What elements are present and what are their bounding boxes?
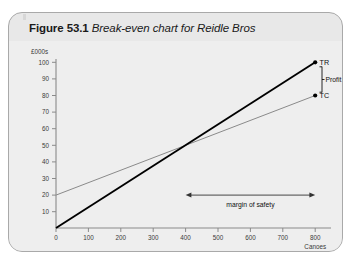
chart-plot-area: £000s 100 90 80 70 60 <box>9 41 343 252</box>
tr-endpoint-marker <box>313 60 317 64</box>
y-tick-label-90: 90 <box>42 75 50 82</box>
y-tick-label-50: 50 <box>42 142 50 149</box>
y-tick-label-70: 70 <box>42 108 50 115</box>
figure-number: Figure 53.1 <box>29 22 89 34</box>
x-axis-title: Canoes <box>304 243 326 250</box>
scan-artifact <box>23 14 26 20</box>
x-tick-label-800: 800 <box>310 234 321 241</box>
figure-title: Figure 53.1 Break-even chart for Reidle … <box>29 22 255 34</box>
profit-label: Profit <box>326 76 342 83</box>
tc-endpoint-marker <box>313 93 317 97</box>
plot-background <box>9 41 343 252</box>
y-tick-label-100: 100 <box>38 59 49 66</box>
x-tick-label-200: 200 <box>116 234 127 241</box>
tr-series-label: TR <box>320 58 330 67</box>
x-tick-label-100: 100 <box>83 234 94 241</box>
margin-of-safety-label: margin of safety <box>226 201 275 209</box>
y-tick-label-80: 80 <box>42 92 50 99</box>
x-tick-label-700: 700 <box>278 234 289 241</box>
y-tick-label-30: 30 <box>42 175 50 182</box>
figure-card: Figure 53.1 Break-even chart for Reidle … <box>8 12 343 252</box>
x-tick-label-0: 0 <box>54 234 58 241</box>
y-tick-label-40: 40 <box>42 158 50 165</box>
x-tick-label-400: 400 <box>180 234 191 241</box>
x-tick-label-500: 500 <box>213 234 224 241</box>
break-even-chart-svg: £000s 100 90 80 70 60 <box>9 41 343 252</box>
y-tick-label-60: 60 <box>42 125 50 132</box>
x-tick-label-300: 300 <box>148 234 159 241</box>
y-tick-label-10: 10 <box>42 208 50 215</box>
y-axis-title: £000s <box>31 48 48 55</box>
y-tick-label-20: 20 <box>42 191 50 198</box>
x-tick-label-600: 600 <box>245 234 256 241</box>
figure-caption: Break-even chart for Reidle Bros <box>92 22 256 34</box>
